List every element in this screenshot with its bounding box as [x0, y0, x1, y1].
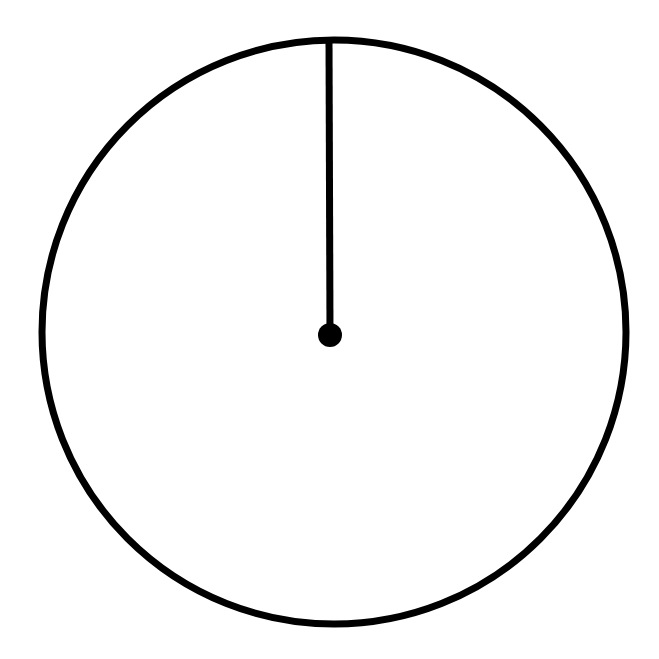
center-point	[318, 323, 342, 347]
radius-segment	[329, 38, 330, 335]
circle-diagram	[0, 0, 659, 659]
figure-canvas	[0, 0, 659, 659]
